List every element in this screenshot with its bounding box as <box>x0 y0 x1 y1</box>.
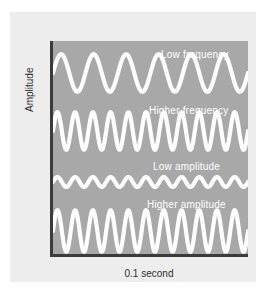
plot-frame: Low frequencyHigher frequencyLow amplitu… <box>50 41 248 259</box>
figure-panel: Low frequencyHigher frequencyLow amplitu… <box>10 12 256 282</box>
waveform-svg <box>53 207 248 254</box>
waveform-label: Higher amplitude <box>147 199 226 210</box>
y-axis-line <box>50 41 53 257</box>
waveform-row <box>53 207 248 254</box>
waveform-label: Higher frequency <box>149 105 228 116</box>
waveform-path <box>53 112 248 150</box>
waveform-label: Low amplitude <box>153 161 220 172</box>
plot-area: Low frequencyHigher frequencyLow amplitu… <box>53 41 248 254</box>
y-axis-title: Amplitude <box>24 96 35 112</box>
x-axis-title: 0.1 second <box>50 268 248 279</box>
waveform-path <box>53 177 248 187</box>
waveform-path <box>53 210 248 252</box>
waveform-label: Low frequency <box>161 49 229 60</box>
x-axis-line <box>50 254 248 257</box>
